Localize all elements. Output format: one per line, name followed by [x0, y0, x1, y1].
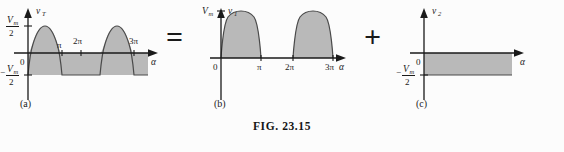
panel-c-x-axis-label: α — [520, 57, 526, 67]
panel-a-y-axis-label: v — [36, 6, 41, 16]
panel-a-xlabel-3pi: 3π — [129, 36, 139, 46]
panel-b-x-axis-label: α — [339, 62, 345, 72]
panel-b-ylabel-vm: V m — [202, 6, 214, 17]
panel-c-dc-component: v 2 α 0 − V m 2 (c) — [396, 0, 564, 122]
panel-a-ylabel-neg-den: 2 — [9, 77, 14, 87]
panel-a-total-waveform: v T α 0 V m 2 − V m 2 π 2π 3π — [0, 0, 170, 122]
panel-c-ylabel-sign: − — [396, 67, 401, 77]
panel-a-xlabel-2pi: 2π — [73, 36, 83, 46]
panel-b-sublabel: (b) — [214, 98, 226, 109]
panel-a-xlabel-pi: π — [57, 40, 62, 50]
panel-c-sublabel: (c) — [416, 98, 427, 109]
panel-a-ylabel-pos-sub: m — [14, 19, 19, 26]
panel-b-xlabel-2pi: 2π — [285, 62, 295, 72]
panel-c-y-axis-label: v — [432, 6, 437, 16]
panel-b-y-axis-arrow — [217, 8, 225, 18]
equals-operator: = — [166, 22, 183, 52]
panel-b-half-wave-component: v 1 α 0 V m π 2π 3π (b) — [196, 0, 366, 122]
plus-operator: + — [364, 22, 381, 52]
panel-a-shade-hump-1 — [28, 26, 62, 75]
panel-a-x-axis-arrow — [148, 49, 158, 57]
panel-a-origin-label: 0 — [20, 57, 25, 67]
panel-c-ylabel-sub: m — [410, 68, 415, 75]
figure-23-15: v T α 0 V m 2 − V m 2 π 2π 3π — [0, 0, 564, 152]
panel-c-ylabel-negative: − V m 2 — [396, 64, 415, 87]
panel-a-shade-slab-2 — [134, 53, 148, 75]
panel-b-x-axis-arrow — [336, 54, 346, 62]
panel-a-ylabel-pos-den: 2 — [9, 28, 14, 38]
panel-c-origin-label: 0 — [416, 57, 421, 67]
panel-c-shade-dc-level — [424, 53, 512, 75]
figure-caption: FIG. 23.15 — [0, 120, 564, 132]
panel-b-origin-label: 0 — [213, 62, 218, 72]
panel-b-xlabel-pi: π — [257, 62, 262, 72]
panel-a-shade-hump-2 — [100, 26, 134, 75]
panel-c-ylabel-den: 2 — [405, 77, 410, 87]
panel-a-ylabel-negative: − V m 2 — [0, 64, 19, 87]
panel-a-y-axis-arrow — [24, 8, 32, 18]
panel-a-ylabel-neg-sign: − — [0, 67, 5, 77]
panel-b-y-axis-sublabel: 1 — [234, 10, 237, 17]
panel-a-ylabel-positive: V m 2 — [6, 15, 19, 38]
panel-b-xlabel-3pi: 3π — [325, 62, 335, 72]
panel-c-y-axis-arrow — [420, 8, 428, 18]
panel-a-ylabel-neg-sub: m — [14, 68, 19, 75]
panel-a-shade-slab-1 — [62, 53, 100, 75]
panel-a-y-axis-sublabel: T — [42, 10, 46, 17]
panel-c-x-axis-arrow — [514, 49, 524, 57]
panel-b-ylabel-sub: m — [209, 10, 214, 17]
panel-a-x-axis-label: α — [151, 57, 157, 67]
panel-c-y-axis-sublabel: 2 — [438, 10, 442, 17]
panel-a-sublabel: (a) — [20, 98, 31, 109]
